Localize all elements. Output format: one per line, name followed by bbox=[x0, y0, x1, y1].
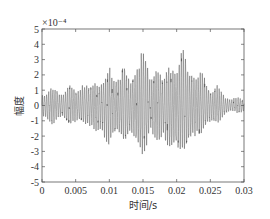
y-tick-label: 2 bbox=[34, 69, 39, 80]
x-tick-label: 0 bbox=[40, 185, 45, 196]
x-tick-label: 0.02 bbox=[168, 185, 186, 196]
x-tick-label: 0.005 bbox=[64, 185, 87, 196]
waveform-chart: 00.0050.010.0150.020.0250.03 543210-1-2-… bbox=[0, 0, 270, 219]
y-tick-label: -3 bbox=[31, 146, 39, 157]
y-exponent-label: ×10⁻⁴ bbox=[42, 17, 67, 28]
y-tick-label: -1 bbox=[31, 115, 39, 126]
y-tick-label: -4 bbox=[31, 161, 39, 172]
x-axis-label: 时间/s bbox=[129, 199, 158, 211]
y-tick-label: -5 bbox=[31, 177, 39, 188]
y-tick-label: -2 bbox=[31, 131, 39, 142]
y-tick-label: 3 bbox=[34, 54, 39, 65]
x-tick-label: 0.025 bbox=[199, 185, 222, 196]
signal-line bbox=[42, 50, 244, 154]
x-tick-label: 0.01 bbox=[101, 185, 119, 196]
x-tick-label: 0.03 bbox=[235, 185, 253, 196]
y-axis-label: 幅度 bbox=[13, 96, 25, 116]
y-axis-ticks: 543210-1-2-3-4-5 bbox=[31, 24, 244, 188]
plot-area bbox=[42, 50, 244, 154]
y-tick-label: 0 bbox=[34, 100, 39, 111]
y-tick-label: 1 bbox=[34, 85, 39, 96]
x-tick-label: 0.015 bbox=[132, 185, 155, 196]
y-tick-label: 4 bbox=[34, 39, 39, 50]
y-tick-label: 5 bbox=[34, 24, 39, 35]
